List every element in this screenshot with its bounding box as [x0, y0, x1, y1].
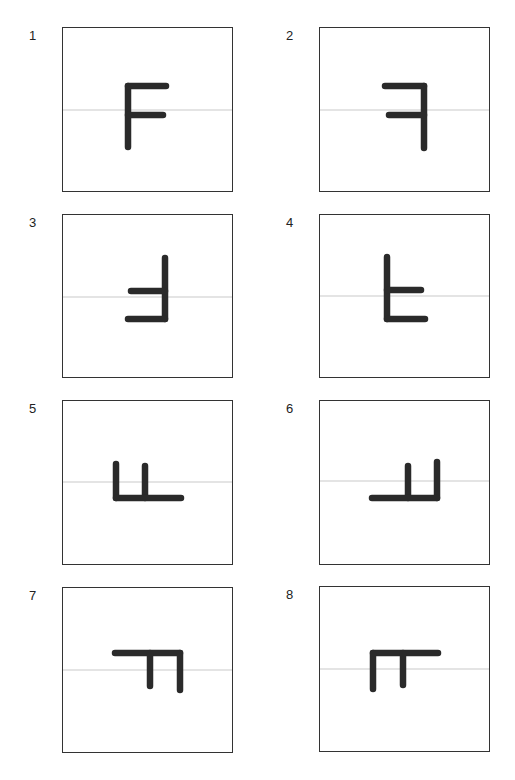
letter-f-glyph-3	[63, 258, 232, 319]
letter-f-glyph-5	[63, 464, 232, 498]
letter-f-glyph-8	[320, 653, 489, 689]
letter-drawing-canvas	[0, 0, 515, 780]
letter-f-glyph-1	[63, 86, 232, 147]
letter-f-glyph-6	[320, 462, 489, 498]
letter-f-glyph-2	[320, 86, 489, 148]
letter-f-glyph-4	[320, 257, 489, 319]
letter-f-glyph-7	[63, 653, 232, 690]
